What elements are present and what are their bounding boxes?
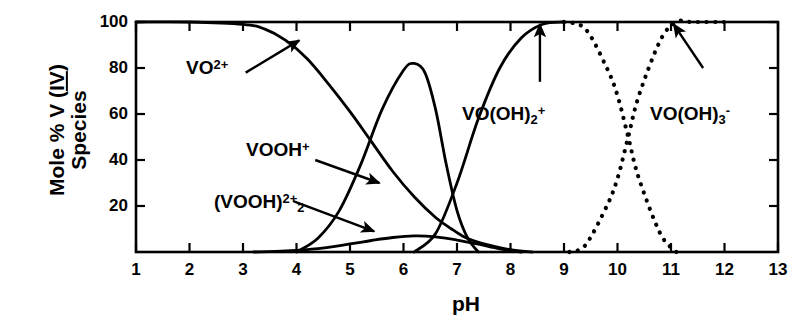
series-label-vooh2plus-base: VO(OH)	[462, 103, 531, 124]
series-label-vooh2plus-sub: 2	[531, 112, 538, 127]
series-label-vooh3minus-sup: -	[726, 103, 730, 118]
series-label-vo2plus-sup: 2+	[213, 57, 228, 72]
x-tick-label-4: 4	[277, 260, 317, 280]
curve--vooh-2-2-	[254, 236, 522, 252]
series-label-voohplus-sup: +	[302, 139, 310, 154]
curve-vo-oh-3-	[569, 21, 724, 252]
x-tick-label-12: 12	[705, 260, 745, 280]
series-label-voohplus-base: VOOH	[246, 139, 302, 160]
x-tick-label-6: 6	[384, 260, 424, 280]
arrow-voohplus	[315, 160, 379, 183]
arrow-voohdimer	[294, 201, 374, 231]
series-label-voohdimer: (VOOH)2+2	[214, 192, 305, 215]
series-label-vo2plus: VO2+	[186, 58, 228, 77]
series-label-voohdimer-base: (VOOH)	[214, 191, 283, 212]
y-tick-label-40: 40	[80, 150, 128, 170]
x-tick-label-10: 10	[598, 260, 638, 280]
series-label-vooh2plus-sup: +	[538, 103, 546, 118]
series-label-vooh2plus: VO(OH)2+	[462, 104, 545, 127]
series-label-vooh3minus-base: VO(OH)	[650, 103, 719, 124]
series-label-vooh3minus-sub: 3	[719, 112, 726, 127]
arrow-vooh3minus	[674, 24, 703, 68]
series-label-voohplus: VOOH+	[246, 140, 310, 159]
x-tick-label-9: 9	[544, 260, 584, 280]
series-label-voohdimer-sub: 2	[297, 200, 304, 215]
x-tick-label-13: 13	[758, 260, 794, 280]
plot-frame	[136, 22, 778, 252]
x-tick-label-11: 11	[651, 260, 691, 280]
series-label-vooh3minus: VO(OH)3-	[650, 104, 730, 127]
series-label-vo2plus-base: VO	[186, 57, 213, 78]
x-tick-label-8: 8	[491, 260, 531, 280]
curve-vo-oh-2-	[564, 22, 676, 252]
x-tick-label-2: 2	[170, 260, 210, 280]
x-tick-label-3: 3	[223, 260, 263, 280]
y-tick-label-80: 80	[80, 58, 128, 78]
x-axis-title: pH	[452, 292, 480, 316]
y-tick-label-20: 20	[80, 196, 128, 216]
axis-ticks	[136, 22, 778, 252]
arrow-vo2plus	[246, 40, 299, 72]
figure-root: Mole % V (IV) Species 20406080100 123456…	[0, 0, 794, 331]
x-tick-label-5: 5	[330, 260, 370, 280]
series-label-voohdimer-sup: 2+	[283, 191, 298, 206]
y-tick-label-100: 100	[80, 12, 128, 32]
y-tick-label-60: 60	[80, 104, 128, 124]
x-tick-label-1: 1	[116, 260, 156, 280]
curve-vooh-	[297, 63, 479, 252]
x-tick-label-7: 7	[437, 260, 477, 280]
series-curves	[136, 21, 725, 252]
